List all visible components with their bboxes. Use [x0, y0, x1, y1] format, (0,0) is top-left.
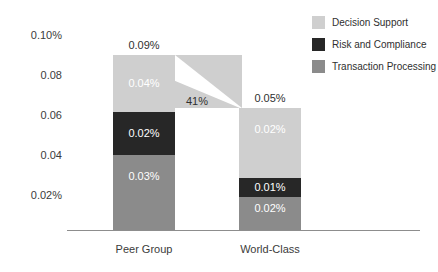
bar-segment-label: 0.02%	[128, 128, 159, 139]
bar-world-class[interactable]: 0.02% 0.01% 0.02%	[239, 108, 301, 230]
legend-item-decision-support[interactable]: Decision Support	[312, 13, 436, 32]
legend: Decision Support Risk and Compliance Tra…	[312, 13, 436, 79]
bar-peer-group[interactable]: 0.04% 0.02% 0.03%	[113, 55, 175, 230]
legend-label: Transaction Processing	[332, 61, 436, 72]
bar-total-label-world-class: 0.05%	[239, 93, 301, 104]
bar-segment-label: 0.02%	[254, 203, 285, 214]
bar-segment-label: 0.01%	[254, 182, 285, 193]
legend-label: Decision Support	[332, 17, 408, 28]
bar-segment-world-class-transaction-processing[interactable]: 0.02%	[239, 197, 301, 230]
x-axis-line	[67, 230, 420, 231]
bar-segment-peer-group-transaction-processing[interactable]: 0.03%	[113, 155, 175, 230]
x-axis-category-peer-group: Peer Group	[104, 243, 184, 255]
legend-item-risk-and-compliance[interactable]: Risk and Compliance	[312, 35, 436, 54]
legend-item-transaction-processing[interactable]: Transaction Processing	[312, 57, 436, 76]
legend-swatch-icon	[312, 38, 325, 51]
reduction-percent-label: 41%	[186, 96, 208, 107]
bar-segment-peer-group-decision-support[interactable]: 0.04%	[113, 55, 175, 112]
bar-segment-world-class-risk-and-compliance[interactable]: 0.01%	[239, 178, 301, 197]
legend-swatch-icon	[312, 16, 325, 29]
x-axis-category-world-class: World-Class	[230, 243, 310, 255]
legend-label: Risk and Compliance	[332, 39, 427, 50]
bar-total-label-peer-group: 0.09%	[113, 40, 175, 51]
bar-segment-label: 0.03%	[128, 171, 159, 182]
legend-swatch-icon	[312, 60, 325, 73]
bar-segment-world-class-decision-support[interactable]: 0.02%	[239, 108, 301, 178]
bar-segment-label: 0.02%	[254, 124, 285, 135]
stacked-bar-chart: 0.10% 0.08 0.06 0.04 0.02% 41% 0.09% 0.0…	[0, 0, 438, 272]
bar-segment-peer-group-risk-and-compliance[interactable]: 0.02%	[113, 112, 175, 155]
bar-segment-label: 0.04%	[128, 78, 159, 89]
